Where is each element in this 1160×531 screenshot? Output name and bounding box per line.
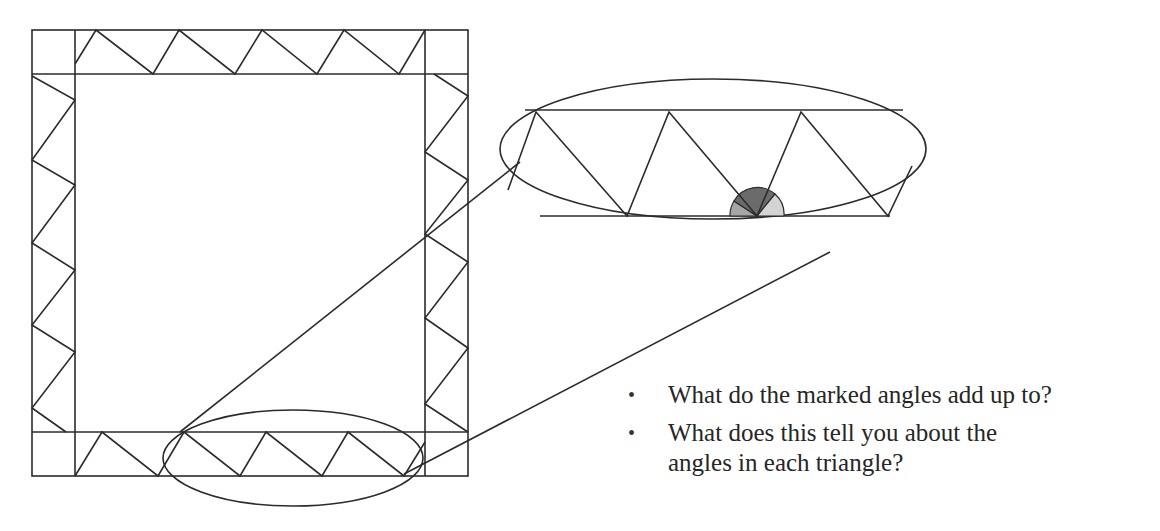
right-zigzag (425, 74, 468, 432)
question-list: • What do the marked angles add up to? •… (628, 380, 1148, 486)
marked-angles (730, 187, 784, 216)
highlight-ellipse (163, 410, 423, 506)
connector-line-upper (180, 162, 520, 432)
question-text: What does this tell you about the angles… (668, 419, 997, 476)
magnified-ellipse (500, 79, 926, 219)
bullet-icon: • (628, 380, 635, 410)
question-item: • What does this tell you about the angl… (628, 418, 1058, 478)
outer-square (32, 30, 468, 476)
bottom-zigzag (75, 432, 425, 476)
left-zigzag (32, 76, 75, 432)
question-text: What do the marked angles add up to? (668, 381, 1052, 408)
top-zigzag (75, 30, 425, 74)
bullet-icon: • (628, 418, 635, 448)
question-item: • What do the marked angles add up to? (628, 380, 1148, 410)
